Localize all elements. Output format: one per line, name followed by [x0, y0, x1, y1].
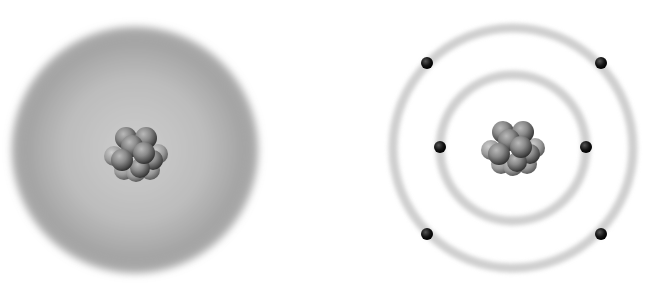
nucleus-icon — [481, 121, 545, 176]
electron-icon — [580, 141, 592, 153]
electron-icon — [434, 141, 446, 153]
atom-models-figure — [0, 0, 645, 293]
electron-icon — [595, 57, 607, 69]
electron-icon — [421, 228, 433, 240]
bohr-orbit-model — [393, 28, 633, 268]
electron-cloud-model — [8, 23, 262, 277]
electron-icon — [595, 228, 607, 240]
electron-icon — [421, 57, 433, 69]
